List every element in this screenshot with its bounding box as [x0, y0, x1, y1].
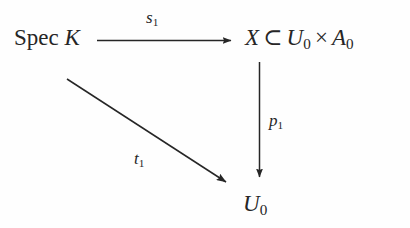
variable-u-bottom-subscript: 0 — [260, 201, 268, 218]
variable-x: X — [245, 25, 259, 50]
diagonal-arrow-shaft — [67, 79, 226, 182]
arrow-label-s1-subscript: 1 — [153, 16, 159, 28]
arrow-label-s1-symbol: s — [146, 8, 153, 27]
arrow-label-t1: t1 — [134, 150, 144, 169]
spec-operator: Spec — [14, 25, 59, 50]
node-u0: U0 — [243, 192, 267, 217]
node-x-subset-u0-times-a0: X⊂U0×A0 — [245, 26, 354, 51]
arrow-label-t1-subscript: 1 — [139, 157, 145, 169]
arrow-label-p1-symbol: p — [269, 111, 278, 130]
variable-k: K — [64, 25, 79, 50]
arrow-label-s1: s1 — [146, 9, 158, 28]
subset-symbol: ⊂ — [259, 25, 287, 50]
arrow-label-p1-subscript: 1 — [278, 119, 284, 131]
node-spec-k: Spec K — [14, 26, 80, 49]
variable-a-subscript: 0 — [346, 35, 354, 52]
variable-a: A — [332, 25, 346, 50]
commutative-diagram: X ⊂ U0 × A0 --> U0 --> U0 (diagonal) -->… — [0, 0, 410, 228]
variable-u-subscript: 0 — [303, 35, 311, 52]
variable-u-bottom: U — [243, 191, 260, 216]
arrow-label-p1: p1 — [269, 112, 283, 131]
variable-u: U — [287, 25, 304, 50]
times-symbol: × — [311, 25, 332, 50]
